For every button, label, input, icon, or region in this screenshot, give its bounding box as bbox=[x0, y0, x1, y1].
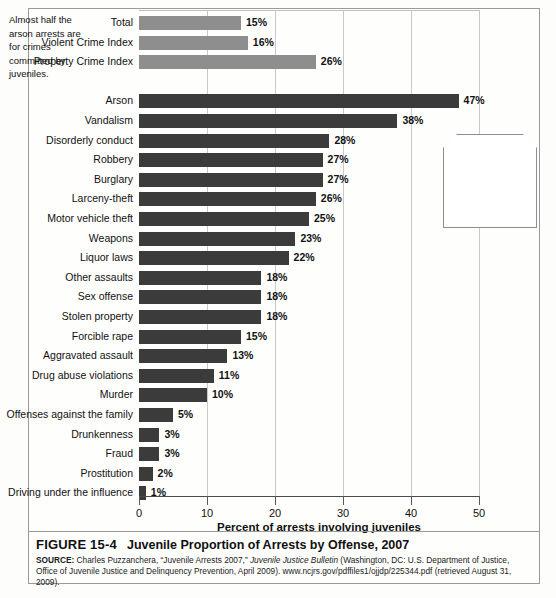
bar-value-label: 18% bbox=[266, 309, 287, 324]
bar-row: Stolen property18% bbox=[139, 310, 479, 324]
bar-category-label: Drug abuse violations bbox=[32, 368, 133, 383]
bar-value-label: 16% bbox=[253, 35, 274, 50]
bar bbox=[139, 36, 248, 50]
bar bbox=[139, 369, 214, 383]
bar-category-label: Murder bbox=[100, 387, 133, 402]
bar-row: Drunkenness3% bbox=[139, 428, 479, 442]
bar-category-label: Total bbox=[111, 15, 133, 30]
tick-label-40: 40 bbox=[405, 507, 417, 519]
bar bbox=[139, 388, 207, 402]
bar bbox=[139, 486, 146, 500]
figure-caption: FIGURE 15-4 Juvenile Proportion of Arres… bbox=[36, 537, 532, 589]
tick-mark-40 bbox=[411, 496, 412, 505]
bar-value-label: 3% bbox=[164, 427, 179, 442]
bar-category-label: Burglary bbox=[94, 172, 133, 187]
source-publication: Juvenile Justice Bulletin bbox=[250, 555, 338, 565]
figure-title: Juvenile Proportion of Arrests by Offens… bbox=[127, 538, 409, 552]
bar-category-label: Forcible rape bbox=[72, 329, 133, 344]
bar-value-label: 2% bbox=[158, 466, 173, 481]
bar bbox=[139, 55, 316, 69]
tick-label-0: 0 bbox=[136, 507, 142, 519]
bar-row: Robbery27% bbox=[139, 153, 479, 167]
bar-row: Other assaults18% bbox=[139, 271, 479, 285]
bar-category-label: Larceny-theft bbox=[72, 191, 133, 206]
bar bbox=[139, 232, 295, 246]
bar-row: Vandalism38% bbox=[139, 114, 479, 128]
bar-value-label: 47% bbox=[464, 93, 485, 108]
bar-row: Disorderly conduct28% bbox=[139, 134, 479, 148]
source-text-part1: Charles Puzzanchera, “Juvenile Arrests 2… bbox=[74, 555, 250, 565]
bar-value-label: 22% bbox=[294, 250, 315, 265]
bar bbox=[139, 330, 241, 344]
bar bbox=[139, 290, 261, 304]
bar-category-label: Aggravated assault bbox=[43, 348, 133, 363]
bar-value-label: 38% bbox=[402, 113, 423, 128]
bar-category-label: Drunkenness bbox=[71, 427, 133, 442]
bar-value-label: 10% bbox=[212, 387, 233, 402]
tick-mark-20 bbox=[275, 496, 276, 505]
tick-label-30: 30 bbox=[337, 507, 349, 519]
bar-value-label: 23% bbox=[300, 231, 321, 246]
bar-category-label: Prostitution bbox=[80, 466, 133, 481]
bar-category-label: Stolen property bbox=[62, 309, 133, 324]
plot-top-rule bbox=[139, 10, 479, 11]
bar-category-label: Other assaults bbox=[65, 270, 133, 285]
bar-category-label: Fraud bbox=[106, 446, 133, 461]
bar-value-label: 11% bbox=[219, 368, 239, 383]
bar-category-label: Sex offense bbox=[78, 289, 133, 304]
bar-value-label: 5% bbox=[178, 407, 193, 422]
bar-value-label: 18% bbox=[266, 289, 287, 304]
bar bbox=[139, 447, 159, 461]
source-label: SOURCE: bbox=[36, 555, 74, 565]
bar-category-label: Disorderly conduct bbox=[46, 133, 133, 148]
chart-plot-area: Total15%Violent Crime Index16%Property C… bbox=[139, 10, 479, 496]
bar-row: Driving under the influence1% bbox=[139, 486, 479, 500]
bar bbox=[139, 16, 241, 30]
bar bbox=[139, 467, 153, 481]
tick-mark-30 bbox=[343, 496, 344, 505]
tick-label-50: 50 bbox=[473, 507, 485, 519]
bar-row: Aggravated assault13% bbox=[139, 349, 479, 363]
bar-row: Larceny-theft26% bbox=[139, 192, 479, 206]
bar-value-label: 1% bbox=[151, 485, 166, 500]
bar-row: Violent Crime Index16% bbox=[139, 36, 479, 50]
bar bbox=[139, 349, 227, 363]
bar-row: Liquor laws22% bbox=[139, 251, 479, 265]
tick-label-20: 20 bbox=[269, 507, 281, 519]
bar-value-label: 27% bbox=[328, 172, 349, 187]
bar-value-label: 13% bbox=[232, 348, 253, 363]
bar-value-label: 26% bbox=[321, 54, 342, 69]
bar-row: Murder10% bbox=[139, 388, 479, 402]
tick-mark-10 bbox=[207, 496, 208, 505]
bar-category-label: Offenses against the family bbox=[7, 407, 133, 422]
figure-source: SOURCE: Charles Puzzanchera, “Juvenile A… bbox=[36, 555, 528, 589]
bar bbox=[139, 251, 289, 265]
bar-row: Offenses against the family5% bbox=[139, 408, 479, 422]
bar-row: Fraud3% bbox=[139, 447, 479, 461]
tick-mark-50 bbox=[479, 496, 480, 505]
bar-category-label: Arson bbox=[106, 93, 133, 108]
bar-category-label: Weapons bbox=[89, 231, 133, 246]
bar-value-label: 28% bbox=[334, 133, 355, 148]
bar-value-label: 3% bbox=[164, 446, 179, 461]
bar-row: Forcible rape15% bbox=[139, 330, 479, 344]
bar-row: Motor vehicle theft25% bbox=[139, 212, 479, 226]
bar-row: Arson47% bbox=[139, 94, 479, 108]
bar-value-label: 25% bbox=[314, 211, 335, 226]
bar-category-label: Motor vehicle theft bbox=[47, 211, 133, 226]
bar-category-label: Vandalism bbox=[85, 113, 133, 128]
tick-mark-0 bbox=[139, 496, 140, 505]
figure-15-4: Total15%Violent Crime Index16%Property C… bbox=[0, 0, 556, 598]
bar-row: Weapons23% bbox=[139, 232, 479, 246]
bar-value-label: 18% bbox=[266, 270, 287, 285]
bar-value-label: 27% bbox=[328, 152, 349, 167]
figure-number: FIGURE 15-4 bbox=[36, 537, 117, 552]
bar bbox=[139, 271, 261, 285]
callout-text: Almost half the arson arrests are for cr… bbox=[9, 13, 87, 81]
bar-value-label: 15% bbox=[246, 329, 267, 344]
bar-value-label: 26% bbox=[321, 191, 342, 206]
bar bbox=[139, 134, 329, 148]
bar-row: Drug abuse violations11% bbox=[139, 369, 479, 383]
bar-row: Sex offense18% bbox=[139, 290, 479, 304]
bar bbox=[139, 212, 309, 226]
